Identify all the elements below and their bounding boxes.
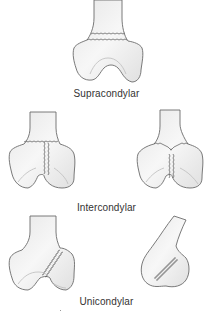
unicondylar-anterior-figure <box>4 214 84 299</box>
stray-mark <box>60 310 61 311</box>
intercondylar-t-figure <box>4 110 84 195</box>
intercondylar-y-figure <box>132 110 212 195</box>
supracondylar-label: Supracondylar <box>0 88 213 99</box>
unicondylar-lateral-figure <box>136 214 211 299</box>
supracondylar-figure <box>68 0 148 85</box>
unicondylar-label: Unicondylar <box>0 296 213 307</box>
intercondylar-label: Intercondylar <box>0 202 213 213</box>
